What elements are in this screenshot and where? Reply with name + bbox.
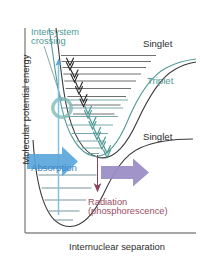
singlet-excited-curve	[56, 28, 196, 158]
label-intersystem-crossing: Intersystem crossing	[31, 28, 79, 47]
singlet-excited-vibrational-levels	[61, 56, 156, 115]
label-radiation-line2: (phosphorescence)	[88, 207, 168, 216]
label-intersystem-crossing-line2: crossing	[31, 37, 79, 46]
label-radiation: Radiation (phosphorescence)	[88, 198, 168, 217]
emission-block-arrow	[101, 159, 149, 187]
label-absorption: Absorption	[31, 163, 77, 173]
figure-root: Intersystem crossing Singlet Triplet Sin…	[0, 0, 200, 260]
x-axis-label: Internuclear separation	[34, 241, 200, 252]
triplet-curve	[49, 28, 196, 156]
y-axis-label: Molecular potential energy	[20, 22, 31, 197]
label-singlet-ground: Singlet	[143, 132, 172, 142]
label-singlet-excited: Singlet	[143, 39, 172, 49]
excitation-arrow	[55, 59, 61, 216]
phosphorescence-arrow	[94, 155, 102, 193]
label-triplet: Triplet	[147, 76, 173, 86]
vibrational-relaxation-singlet	[67, 58, 88, 107]
